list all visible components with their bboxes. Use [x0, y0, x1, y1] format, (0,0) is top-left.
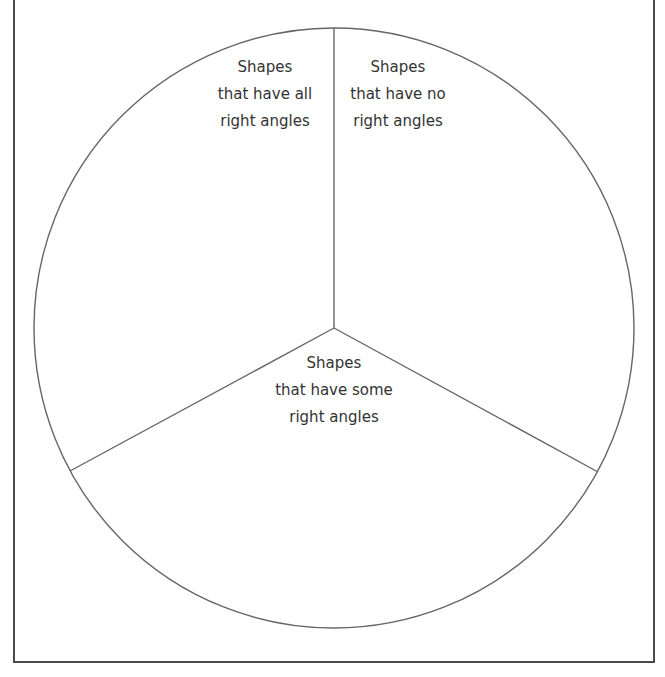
label-line: that have no — [338, 81, 458, 108]
label-line: Shapes — [205, 54, 325, 81]
label-line: Shapes — [264, 350, 404, 377]
label-line: right angles — [338, 108, 458, 135]
label-line: that have all — [205, 81, 325, 108]
label-line: that have some — [264, 377, 404, 404]
label-line: right angles — [264, 404, 404, 431]
sorting-circle-diagram — [0, 0, 665, 677]
label-line: Shapes — [338, 54, 458, 81]
section-label-no-right-angles: Shapes that have no right angles — [338, 54, 458, 135]
section-label-all-right-angles: Shapes that have all right angles — [205, 54, 325, 135]
section-label-some-right-angles: Shapes that have some right angles — [264, 350, 404, 431]
label-line: right angles — [205, 108, 325, 135]
